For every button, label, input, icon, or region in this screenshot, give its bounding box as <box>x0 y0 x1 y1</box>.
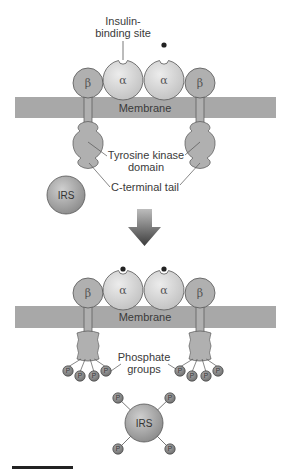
svg-text:P: P <box>92 372 96 379</box>
svg-text:P: P <box>78 372 82 379</box>
alpha-label-right: α <box>160 74 168 87</box>
c-tail-leader-right <box>180 163 200 185</box>
svg-text:P: P <box>216 367 220 374</box>
tk-domain-label-1: Tyrosine kinase <box>108 149 184 161</box>
phosphate-icon: P <box>187 371 197 381</box>
phosphate-icon: P <box>165 393 175 403</box>
irs-label-top: IRS <box>58 190 75 201</box>
tk-domain-label-2: domain <box>128 161 164 173</box>
phosphate-icon: P <box>113 444 123 454</box>
irs-label-bottom: IRS <box>136 418 153 429</box>
alpha-label-left-active: α <box>119 284 127 297</box>
receptor-inactive: Insulin- binding site β β α α <box>15 15 276 214</box>
tk-domain-right <box>185 122 215 169</box>
svg-text:P: P <box>66 367 70 374</box>
beta-subunit-left: β <box>73 68 103 169</box>
svg-text:P: P <box>168 394 172 401</box>
phosphate-icon: P <box>63 366 73 376</box>
phosphate-icon: P <box>101 366 111 376</box>
membrane-label-top: Membrane <box>119 102 172 114</box>
c-terminal-label: C-terminal tail <box>111 181 179 193</box>
alpha-label-right-active: α <box>160 284 168 297</box>
receptor-active: β β α α Membrane Phosphate groups PPPPPP… <box>15 266 276 454</box>
alpha-subunit-left-active: α <box>103 266 143 310</box>
arrow-down-icon <box>128 209 161 246</box>
beta-label-right-active: β <box>197 287 203 300</box>
bound-insulin-icon <box>120 266 125 271</box>
phosphate-bond <box>80 359 85 372</box>
beta-label-left-active: β <box>85 287 91 300</box>
svg-text:P: P <box>204 372 208 379</box>
phosphate-icon: P <box>165 444 175 454</box>
beta-label-left: β <box>85 77 91 90</box>
bound-insulin-icon <box>161 266 166 271</box>
irs-protein-inactive: IRS <box>47 176 85 214</box>
phosphate-icon: P <box>113 393 123 403</box>
svg-text:P: P <box>116 394 120 401</box>
tk-domain-right-active <box>189 331 211 361</box>
phosphate-label-1: Phosphate <box>118 351 171 363</box>
beta-label-right: β <box>197 77 203 90</box>
binding-site-label-1: Insulin- <box>105 15 141 27</box>
phosphate-bond <box>68 359 81 367</box>
irs-protein-active: IRS <box>118 398 170 449</box>
svg-text:P: P <box>168 445 172 452</box>
phosphate-icon: P <box>89 371 99 381</box>
phosphate-icon: P <box>201 371 211 381</box>
phosphate-bond <box>180 359 193 367</box>
membrane-label-bottom: Membrane <box>119 311 172 323</box>
alpha-subunit-right: α <box>144 61 184 100</box>
phosphate-label-2: groups <box>127 363 161 375</box>
phosphate-icon: P <box>213 366 223 376</box>
phosphate-bond <box>192 359 197 372</box>
alpha-subunit-left: α <box>103 61 143 100</box>
phosphate-leader-left <box>111 364 121 371</box>
c-tail-leader-left <box>89 163 110 187</box>
tk-domain-left <box>73 122 103 169</box>
tk-domain-left-active <box>77 331 99 361</box>
binding-site-label-2: binding site <box>95 27 151 39</box>
svg-text:P: P <box>116 445 120 452</box>
svg-text:P: P <box>178 367 182 374</box>
alpha-label-left: α <box>119 74 127 87</box>
alpha-subunit-right-active: α <box>144 266 184 310</box>
insulin-receptor-diagram: Insulin- binding site β β α α <box>0 0 292 470</box>
beta-subunit-right: β <box>185 68 215 169</box>
scale-bar <box>12 466 73 469</box>
phosphate-icon: P <box>75 371 85 381</box>
insulin-molecule-icon <box>161 42 166 47</box>
svg-text:P: P <box>104 367 108 374</box>
svg-text:P: P <box>190 372 194 379</box>
phosphate-icon: P <box>175 366 185 376</box>
